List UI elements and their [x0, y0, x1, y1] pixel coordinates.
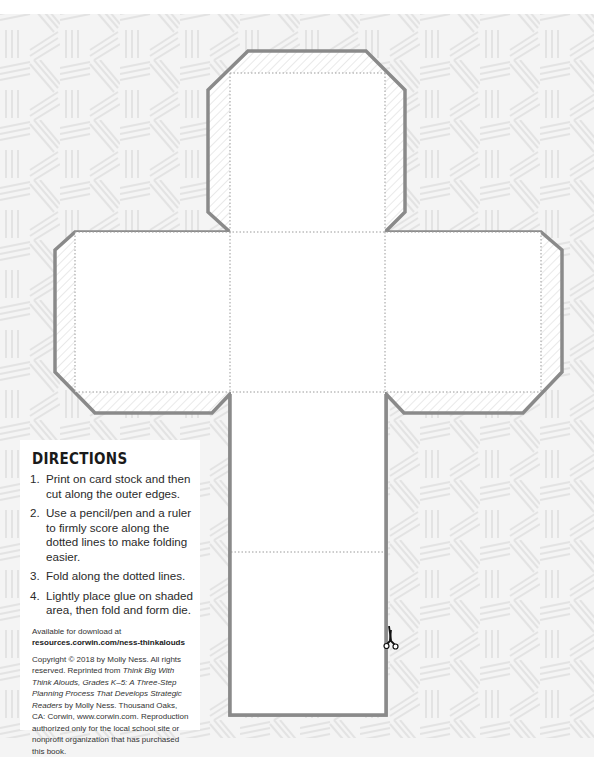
- die-face-right: [385, 232, 541, 392]
- directions-panel: DIRECTIONS 1. Print on card stock and th…: [20, 440, 200, 730]
- step-text: Print on card stock and then cut along t…: [46, 472, 200, 501]
- die-face-bottom: [231, 552, 385, 714]
- download-info: Available for download at resources.corw…: [32, 626, 200, 648]
- die-face-left: [75, 232, 230, 392]
- step-number: 1.: [30, 472, 46, 501]
- step-text: Fold along the dotted lines.: [46, 569, 200, 584]
- die-face-top: [230, 73, 385, 232]
- scissors-icon: [383, 626, 399, 650]
- step-text: Use a pencil/pen and a ruler to firmly s…: [46, 506, 200, 564]
- step-text: Lightly place glue on shaded area, then …: [46, 589, 200, 618]
- die-face-lower: [231, 392, 385, 552]
- step-number: 3.: [30, 569, 46, 584]
- download-label: Available for download at: [32, 627, 121, 636]
- directions-step: 2. Use a pencil/pen and a ruler to firml…: [30, 506, 200, 564]
- step-number: 2.: [30, 506, 46, 564]
- directions-heading: DIRECTIONS: [32, 450, 200, 468]
- directions-list: 1. Print on card stock and then cut alon…: [20, 472, 200, 618]
- download-url[interactable]: resources.corwin.com/ness-thinkalouds: [32, 637, 200, 648]
- die-face-center: [230, 232, 385, 392]
- directions-step: 4. Lightly place glue on shaded area, th…: [30, 589, 200, 618]
- copyright-notice: Copyright © 2018 by Molly Ness. All righ…: [32, 654, 190, 757]
- directions-step: 3. Fold along the dotted lines.: [30, 569, 200, 584]
- directions-step: 1. Print on card stock and then cut alon…: [30, 472, 200, 501]
- step-number: 4.: [30, 589, 46, 618]
